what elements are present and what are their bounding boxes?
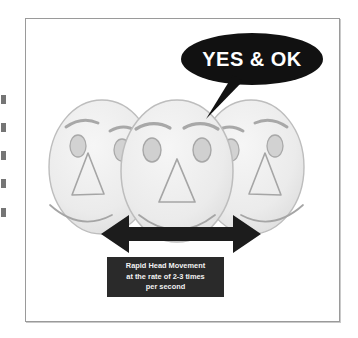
caption-line: Rapid Head Movement (126, 261, 205, 272)
eye-icon (143, 138, 161, 162)
eye-icon (193, 138, 211, 162)
scan-edge-mark (1, 151, 6, 160)
caption-line: at the rate of 2-3 times (126, 272, 204, 283)
illustration-frame: YES & OK Rapid Head Movement at the rate… (25, 18, 340, 322)
speech-bubble-text: YES & OK (181, 33, 323, 85)
scan-edge-mark (1, 208, 6, 217)
eye-icon (267, 135, 283, 157)
caption-line: per second (146, 282, 185, 293)
scan-edge-mark (1, 179, 6, 188)
speech-bubble: YES & OK (181, 33, 323, 85)
caption-box: Rapid Head Movement at the rate of 2-3 t… (107, 257, 224, 297)
eye-icon (70, 135, 86, 157)
illustration-canvas: YES & OK Rapid Head Movement at the rate… (26, 19, 339, 321)
scan-edge-mark (1, 123, 6, 132)
scan-edge-mark (1, 95, 6, 104)
figure-root: YES & OK Rapid Head Movement at the rate… (0, 0, 358, 338)
